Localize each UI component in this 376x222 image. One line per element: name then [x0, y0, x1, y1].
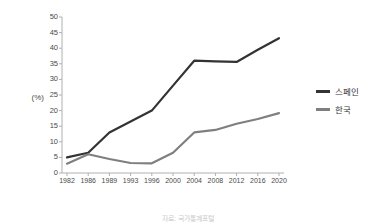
x-tick-label: 1993: [123, 177, 139, 184]
x-tick-label: 1982: [59, 177, 75, 184]
line-chart: (%) 05101520253035404550 198219861989199…: [0, 0, 376, 222]
y-tick-label: 0: [54, 169, 58, 177]
plot-svg: [62, 17, 284, 173]
y-tick-label: 5: [54, 154, 58, 162]
x-tick-label: 2000: [165, 177, 181, 184]
y-axis-label: (%): [10, 93, 44, 102]
legend-item-label: 한국: [335, 103, 351, 115]
y-axis-tick-labels: 05101520253035404550: [40, 17, 58, 173]
y-tick-label: 30: [50, 76, 58, 84]
y-tick-label: 10: [50, 138, 58, 146]
y-tick-label: 50: [50, 13, 58, 21]
y-tick-label: 25: [50, 91, 58, 99]
legend-swatch-icon: [316, 90, 330, 93]
y-tick-label: 40: [50, 44, 58, 52]
series-line: [67, 38, 279, 157]
axis-group: [59, 17, 284, 176]
y-tick-label: 20: [50, 107, 58, 115]
y-tick-label: 45: [50, 29, 58, 37]
legend-item[interactable]: 스페인: [316, 82, 376, 100]
legend-item-label: 스페인: [335, 85, 359, 97]
x-tick-label: 2020: [271, 177, 287, 184]
series-group: [67, 38, 279, 163]
x-tick-label: 2004: [186, 177, 202, 184]
series-line: [67, 113, 279, 164]
x-tick-label: 2008: [208, 177, 224, 184]
x-tick-label: 2012: [229, 177, 245, 184]
x-axis-tick-labels: 1982198619891993199620002004200820122016…: [62, 177, 284, 191]
x-tick-label: 1989: [102, 177, 118, 184]
plot-area: [62, 17, 284, 173]
y-tick-label: 35: [50, 60, 58, 68]
legend-swatch-icon: [316, 108, 330, 111]
x-tick-label: 2016: [250, 177, 266, 184]
y-tick-label: 15: [50, 122, 58, 130]
x-tick-label: 1996: [144, 177, 160, 184]
legend-item[interactable]: 한국: [316, 100, 376, 118]
chart-legend: 스페인한국: [316, 82, 376, 118]
x-tick-label: 1986: [80, 177, 96, 184]
chart-caption: 자료: 국가통계포털: [0, 213, 376, 222]
